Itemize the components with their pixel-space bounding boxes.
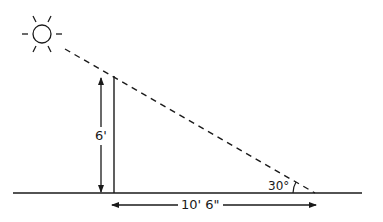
- shadow-diagram: [0, 0, 383, 222]
- shadow-length-label: 10' 6": [178, 198, 223, 211]
- angle-arc: [293, 182, 296, 193]
- height-label: 6': [95, 127, 107, 144]
- angle-label: 30°: [268, 180, 289, 192]
- sun-icon: [22, 16, 62, 52]
- sun-ray-dashed-line: [65, 49, 315, 193]
